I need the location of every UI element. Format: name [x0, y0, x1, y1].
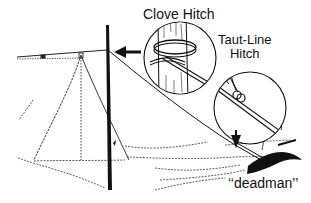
taut-line-hitch-inset: [205, 72, 290, 144]
taut-line-label-line2: Hitch: [218, 47, 271, 61]
ridge-line: [17, 50, 107, 59]
deadman-label: ‘‘deadman’’: [228, 175, 298, 191]
pole: [106, 25, 112, 190]
taut-line-label-line1: Taut-Line: [218, 33, 271, 47]
tarp-tent: [19, 53, 129, 160]
taut-line-hitch-label: Taut-Line Hitch: [218, 33, 271, 61]
clove-hitch-label: Clove Hitch: [143, 6, 215, 22]
deadman-log: [247, 152, 302, 174]
shelter-illustration: [0, 0, 311, 203]
clove-arrow-icon: [114, 46, 141, 58]
